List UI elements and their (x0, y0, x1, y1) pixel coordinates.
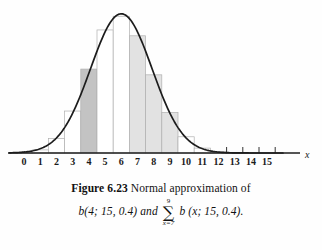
histogram-bar (129, 36, 145, 153)
x-axis-label: x (304, 149, 310, 160)
x-axis-tick-label: 10 (181, 156, 191, 167)
histogram-bar (48, 139, 64, 154)
caption-first-line: Figure 6.23 Normal approximation of (0, 181, 322, 195)
normal-approximation-chart: 0123456789101112131415 x (0, 0, 322, 175)
x-axis-tick-label: 8 (151, 156, 156, 167)
x-axis-tick-label: 14 (246, 156, 256, 167)
x-axis-tick-label: 4 (86, 156, 91, 167)
x-axis-tick-label: 13 (230, 156, 240, 167)
x-axis-tick-label: 7 (135, 156, 140, 167)
chart-plot-area: 0123456789101112131415 x (0, 0, 322, 175)
summation-symbol: 9 ∑ x=7 (163, 198, 175, 227)
histogram-bar (65, 111, 81, 153)
histogram-bar (162, 112, 178, 153)
x-axis-tick-label: 15 (262, 156, 272, 167)
caption-expression-a: b(4; 15, 0.4) and (78, 206, 157, 218)
x-axis-tick-labels: 0123456789101112131415 (22, 156, 273, 167)
x-axis-tick-label: 12 (214, 156, 224, 167)
figure-number: Figure 6.23 (71, 182, 127, 194)
histogram-bars (16, 16, 243, 153)
x-axis-tick-label: 5 (103, 156, 108, 167)
caption-second-line: b(4; 15, 0.4) and 9 ∑ x=7 b (x; 15, 0.4)… (0, 198, 322, 227)
histogram-bar (178, 137, 194, 153)
x-axis-tick-label: 9 (167, 156, 172, 167)
histogram-bar (97, 30, 113, 153)
caption-text-main: Normal approximation of (131, 182, 251, 194)
sigma-icon: ∑ (163, 205, 175, 220)
x-axis-tick-label: 0 (22, 156, 27, 167)
x-axis-tick-label: 6 (119, 156, 124, 167)
histogram-bar (81, 69, 97, 153)
figure-container: 0123456789101112131415 x Figure 6.23 Nor… (0, 0, 322, 250)
summation-lower-limit: x=7 (163, 220, 175, 227)
x-axis-tick-label: 11 (198, 156, 207, 167)
x-axis-tick-label: 1 (38, 156, 43, 167)
figure-caption: Figure 6.23 Normal approximation of b(4;… (0, 181, 322, 227)
caption-expression-b: b (x; 15, 0.4). (179, 206, 243, 218)
x-axis-tick-label: 3 (70, 156, 75, 167)
x-axis-tick-label: 2 (54, 156, 59, 167)
histogram-bar (113, 16, 129, 153)
